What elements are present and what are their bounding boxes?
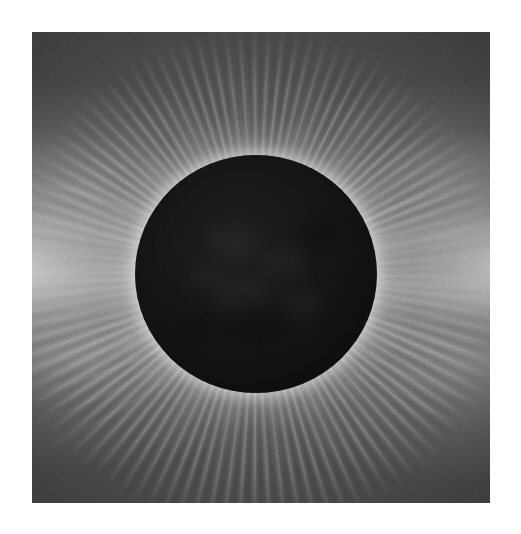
lunar-disk	[135, 155, 377, 393]
lunar-surface-mottle	[135, 155, 377, 393]
eclipse-photograph	[32, 32, 490, 503]
page-canvas	[0, 0, 521, 534]
photo-caption	[32, 507, 490, 531]
